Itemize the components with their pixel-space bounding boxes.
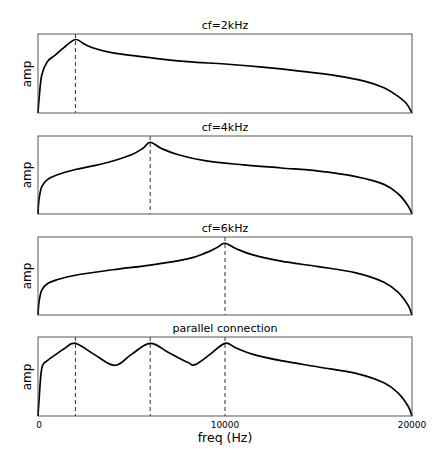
subplot-4: parallel connection amp [20, 322, 412, 416]
response-curve [38, 142, 412, 214]
x-axis: 0 10000 20000 freq (Hz) [36, 420, 426, 445]
y-axis-label: amp [20, 364, 34, 391]
x-tick-label: 0 [36, 420, 42, 430]
center-frequency-markers [75, 337, 225, 416]
response-curve [38, 39, 412, 113]
y-axis-label: amp [20, 162, 34, 189]
plot-frame [38, 136, 412, 214]
y-axis-label: amp [20, 263, 34, 290]
x-tick-label: 20000 [398, 420, 427, 430]
y-axis-label: amp [20, 61, 34, 88]
figure: cf=2kHz amp cf=4kHz amp cf=6kHz amp para… [0, 0, 446, 462]
x-axis-label: freq (Hz) [198, 430, 253, 445]
plot-frame [38, 34, 412, 113]
subplot-2: cf=4kHz amp [20, 121, 412, 214]
subplot-title: cf=2kHz [202, 19, 249, 32]
subplot-3: cf=6kHz amp [20, 222, 412, 315]
subplot-title: cf=4kHz [202, 121, 249, 134]
subplot-1: cf=2kHz amp [20, 19, 412, 113]
x-tick-label: 10000 [211, 420, 240, 430]
subplot-title: cf=6kHz [202, 222, 249, 235]
subplot-title: parallel connection [172, 322, 277, 335]
plot-frame [38, 337, 412, 416]
